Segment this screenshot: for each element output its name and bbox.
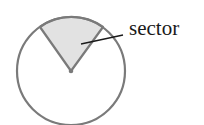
sector-label: sector bbox=[129, 18, 179, 39]
shaded-sector bbox=[40, 17, 103, 71]
center-point bbox=[69, 69, 74, 74]
